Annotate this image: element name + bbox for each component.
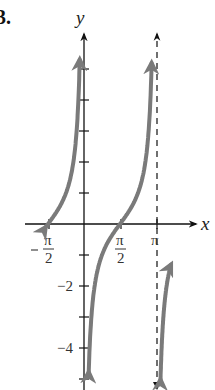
curve-branch-left (46, 60, 80, 228)
svg-text:2: 2 (117, 250, 125, 266)
svg-text:2: 2 (45, 250, 53, 266)
x-tick-label-pi: π (151, 232, 159, 248)
cotangent-curves (46, 60, 171, 380)
graph-canvas: 3. x y π 2 π 2 π −2 −4 (0, 0, 215, 390)
x-tick-label-half-pi: π 2 (115, 232, 126, 266)
curve-branch-right (161, 265, 171, 380)
y-axis-label: y (74, 7, 85, 28)
svg-text:π: π (44, 232, 52, 248)
x-axis-label: x (200, 213, 210, 234)
x-tick-label-neg-half-pi: π 2 (31, 232, 54, 266)
curve-branch-middle (89, 63, 152, 372)
svg-text:π: π (116, 232, 124, 248)
asymptote-bottom-arrow-icon (153, 382, 161, 390)
problem-number: 3. (0, 6, 11, 28)
y-tick-label-neg4: −4 (57, 340, 73, 356)
y-tick-label-neg2: −2 (57, 278, 73, 294)
